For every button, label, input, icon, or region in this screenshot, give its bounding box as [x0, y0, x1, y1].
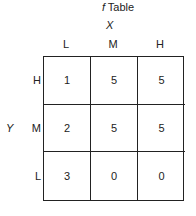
row-label-h: H: [27, 74, 41, 86]
title-text: Table: [108, 1, 134, 13]
x-variable-label: X: [106, 19, 113, 31]
column-label-h: H: [137, 38, 183, 50]
table-cell: 5: [91, 57, 138, 105]
column-label-m: M: [90, 38, 136, 50]
table-cell: 0: [91, 152, 138, 200]
table-cell: 5: [138, 105, 185, 153]
table-cell: 3: [44, 152, 91, 200]
title-symbol: f: [102, 1, 105, 13]
row-label-m: M: [27, 122, 41, 134]
table-cell: 5: [138, 57, 185, 105]
table-cell: 1: [44, 57, 91, 105]
table-title: f Table: [20, 1, 196, 13]
table-cell: 5: [91, 105, 138, 153]
table-cell: 2: [44, 105, 91, 153]
row-label-l: L: [27, 170, 41, 182]
y-variable-label: Y: [6, 122, 13, 134]
table-cell: 0: [138, 152, 185, 200]
column-label-l: L: [43, 38, 89, 50]
f-table-grid: 1 5 5 2 5 5 3 0 0: [43, 56, 184, 201]
